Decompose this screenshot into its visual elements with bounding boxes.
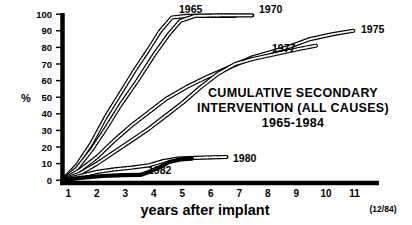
ytick-label: 80 (41, 42, 52, 53)
xtick-label: 8 (265, 188, 271, 199)
x-axis-title: years after implant (141, 202, 270, 218)
xtick-label: 10 (320, 188, 332, 199)
series-label-1965: 1965 (179, 3, 203, 15)
ytick-label: 90 (41, 25, 52, 36)
ytick-label: 20 (41, 142, 52, 153)
xtick-label: 7 (237, 188, 243, 199)
xtick-label: 6 (208, 188, 214, 199)
series-label-1982: 1982 (148, 164, 172, 176)
xtick-label: 4 (151, 188, 157, 199)
xtick-label: 5 (180, 188, 186, 199)
chart-title-line-2: INTERVENTION (ALL CAUSES) (197, 101, 389, 115)
ytick-label: 40 (41, 108, 52, 119)
chart-page: 100 90 80 70 60 50 40 30 20 10 0 % (0, 0, 412, 225)
ytick-label: 30 (41, 125, 52, 136)
ytick-label: 100 (36, 9, 52, 20)
ytick-label: 60 (41, 75, 52, 86)
xtick-label: 2 (94, 188, 100, 199)
chart-title-line-1: CUMULATIVE SECONDARY (208, 86, 378, 100)
ytick-label: 70 (41, 59, 52, 70)
date-stamp: (12/84) (370, 204, 397, 214)
xtick-label: 11 (349, 188, 360, 199)
y-axis-tick-labels: 100 90 80 70 60 50 40 30 20 10 0 (36, 9, 52, 186)
chart-title-line-3: 1965-1984 (262, 116, 324, 130)
cumulative-intervention-chart: 100 90 80 70 60 50 40 30 20 10 0 % (0, 0, 412, 225)
ytick-label: 50 (41, 92, 52, 103)
xtick-label: 9 (294, 188, 300, 199)
series-label-1980: 1980 (233, 152, 257, 164)
series-label-1975: 1975 (361, 23, 385, 35)
series-label-1970: 1970 (259, 3, 283, 15)
y-axis-group: 100 90 80 70 60 50 40 30 20 10 0 % (21, 9, 62, 186)
xtick-label: 1 (66, 188, 72, 199)
xtick-label: 3 (123, 188, 129, 199)
series-label-1977: 1977 (272, 42, 296, 54)
y-axis-title: % (21, 92, 31, 104)
x-axis-tick-labels: 1 2 3 4 5 6 7 8 9 10 11 (66, 188, 361, 199)
chart-title: CUMULATIVE SECONDARY INTERVENTION (ALL C… (197, 86, 389, 130)
ytick-label: 10 (41, 158, 52, 169)
x-axis-group: 1 2 3 4 5 6 7 8 9 10 11 years after impl… (60, 183, 379, 218)
ytick-label: 0 (47, 175, 52, 186)
